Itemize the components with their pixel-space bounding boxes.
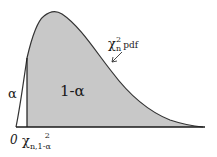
crit-chi: χ <box>22 133 30 148</box>
one-minus-alpha-label: 1-α <box>60 84 85 99</box>
pdf-sup: 2 <box>116 35 121 44</box>
pdf-sub: n <box>116 44 121 53</box>
pdf-text: pdf <box>123 40 138 50</box>
pdf-arrow <box>112 52 122 62</box>
pdf-label: χn2pdf <box>108 36 138 53</box>
crit-sup: 2 <box>45 131 50 140</box>
crit-sub: n,1-α <box>30 142 51 151</box>
critical-value-label: χn,1-α2 <box>22 132 50 151</box>
alpha-label: α <box>8 87 17 100</box>
zero-label: 0 <box>10 134 18 146</box>
shaded-region-1-minus-alpha <box>27 12 203 127</box>
pdf-chi: χ <box>108 36 116 51</box>
